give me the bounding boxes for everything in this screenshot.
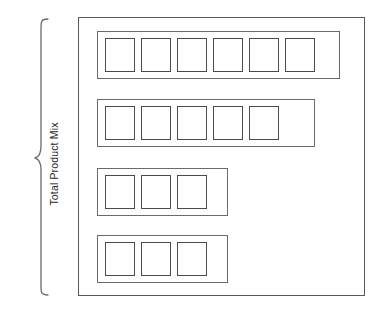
product-4-2[interactable] — [141, 242, 171, 276]
product-3-3[interactable] — [177, 175, 207, 209]
brace-group: Total Product Mix Individual product lin… — [30, 16, 56, 298]
product-line-4[interactable] — [97, 235, 228, 283]
product-2-3[interactable] — [177, 106, 207, 140]
label-total-product-mix: Total Product Mix — [48, 94, 60, 234]
product-3-1[interactable] — [105, 175, 135, 209]
product-1-3[interactable] — [177, 38, 207, 72]
product-1-5[interactable] — [249, 38, 279, 72]
product-line-1[interactable] — [97, 31, 340, 79]
product-2-2[interactable] — [141, 106, 171, 140]
product-4-1[interactable] — [105, 242, 135, 276]
product-1-4[interactable] — [213, 38, 243, 72]
product-line-3[interactable] — [97, 168, 228, 216]
product-4-3[interactable] — [177, 242, 207, 276]
product-1-6[interactable] — [285, 38, 315, 72]
product-2-1[interactable] — [105, 106, 135, 140]
product-1-1[interactable] — [105, 38, 135, 72]
product-1-2[interactable] — [141, 38, 171, 72]
product-3-2[interactable] — [141, 175, 171, 209]
product-line-2[interactable] — [97, 99, 315, 147]
product-2-4[interactable] — [213, 106, 243, 140]
diagram-canvas: Total Product Mix Individual product lin… — [0, 0, 388, 314]
product-2-5[interactable] — [249, 106, 279, 140]
